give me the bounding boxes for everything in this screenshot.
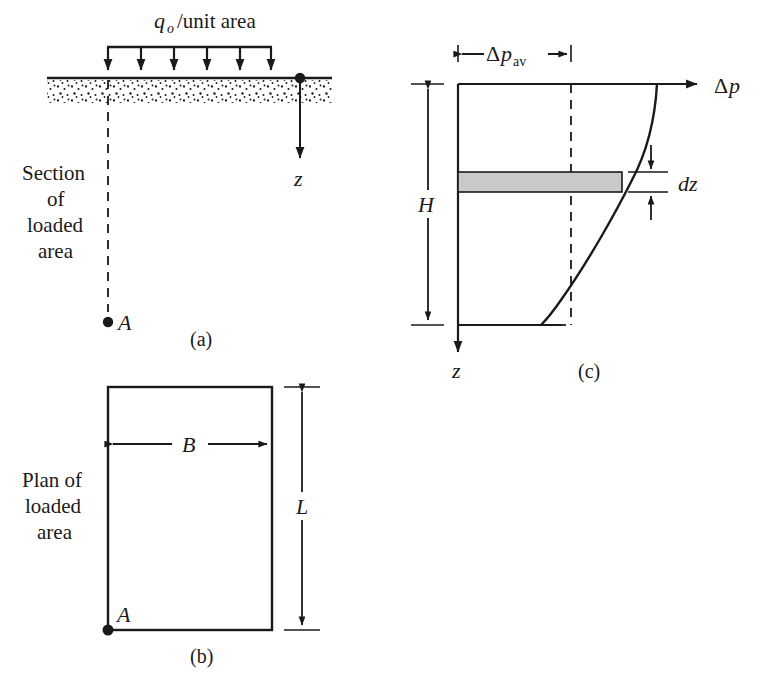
layer-thickness-label: H — [417, 192, 435, 217]
depth-axis-label-c: z — [451, 358, 461, 383]
avg-pressure-delta: Δ — [486, 41, 500, 66]
loaded-area-rectangle — [108, 387, 272, 630]
plan-point-a-label: A — [115, 602, 131, 627]
section-text-line-1: Section — [22, 161, 85, 185]
panel-b-plan-view: B L A Plan of loaded area (b) — [22, 387, 320, 668]
pressure-axis-delta: Δ — [714, 73, 728, 98]
figure-canvas: q o /unit area z A Sect — [0, 0, 771, 688]
plan-text-line-1: Plan of — [22, 468, 82, 492]
section-text-line-4: area — [38, 239, 74, 263]
point-a-marker — [103, 317, 113, 327]
panel-a-section-view: q o /unit area z A Sect — [22, 8, 332, 351]
section-text-line-2: of — [47, 187, 65, 211]
plan-point-a-marker — [103, 625, 114, 636]
pressure-axis-p: p — [727, 73, 740, 98]
load-intensity-label: q o /unit area — [154, 8, 256, 36]
pressure-distribution-curve — [541, 84, 657, 325]
load-symbol-q: q — [154, 8, 165, 33]
element-thickness-label: dz — [678, 171, 698, 196]
avg-pressure-p: p — [499, 41, 512, 66]
panel-c-caption: (c) — [578, 360, 600, 383]
panel-a-caption: (a) — [190, 328, 212, 351]
plan-text-line-2: loaded — [25, 494, 81, 518]
differential-element-strip — [458, 172, 622, 192]
section-description-text: Section of loaded area — [22, 161, 85, 263]
length-dimension-label: L — [295, 494, 308, 519]
soil-stipple-band — [47, 80, 332, 103]
plan-text-line-3: area — [37, 520, 73, 544]
plan-description-text: Plan of loaded area — [22, 468, 82, 544]
load-subscript-o: o — [167, 21, 174, 36]
depth-axis-label: z — [293, 166, 303, 191]
point-a-label: A — [116, 310, 132, 335]
panel-c-pressure-distribution: Δ p av Δ p z H dz — [411, 38, 740, 383]
width-dimension-label: B — [182, 432, 195, 457]
section-text-line-3: loaded — [27, 213, 83, 237]
pressure-axis-label: Δ p — [714, 73, 740, 98]
load-unit-area-text: /unit area — [177, 9, 256, 33]
avg-pressure-subscript: av — [513, 54, 526, 69]
load-arrow-group — [108, 47, 271, 70]
engineering-figure: q o /unit area z A Sect — [0, 0, 771, 688]
panel-b-caption: (b) — [190, 645, 213, 668]
